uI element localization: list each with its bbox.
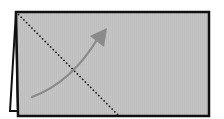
folded-card-diagram xyxy=(0,0,224,119)
card-front-panel xyxy=(16,12,209,116)
fold-diagram-svg xyxy=(0,0,224,119)
